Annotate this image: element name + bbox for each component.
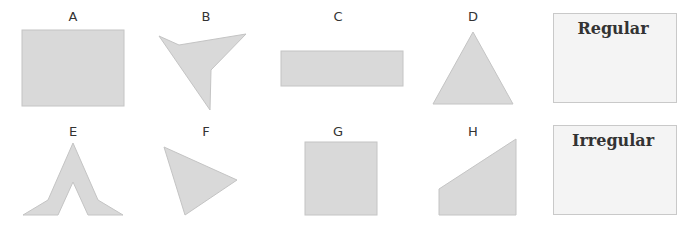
shape-h[interactable] (439, 139, 516, 215)
shape-label-f: F (202, 125, 209, 138)
shape-label-d: D (468, 10, 478, 23)
shape-b[interactable] (159, 34, 246, 110)
shape-label-g: G (333, 125, 343, 138)
shape-c[interactable] (281, 51, 403, 86)
shape-label-h: H (468, 125, 478, 138)
shape-f[interactable] (164, 147, 237, 215)
regular-drop-box[interactable]: Regular (553, 13, 677, 103)
irregular-drop-box[interactable]: Irregular (553, 125, 677, 215)
shape-a[interactable] (22, 30, 124, 106)
shape-e[interactable] (23, 143, 123, 215)
shape-label-e: E (69, 125, 77, 138)
irregular-box-title: Irregular (554, 131, 676, 150)
shape-label-b: B (202, 10, 211, 23)
shape-g[interactable] (305, 142, 377, 215)
shape-label-a: A (69, 10, 78, 23)
shape-label-c: C (333, 10, 342, 23)
shape-d[interactable] (433, 32, 513, 104)
regular-box-title: Regular (554, 19, 676, 38)
